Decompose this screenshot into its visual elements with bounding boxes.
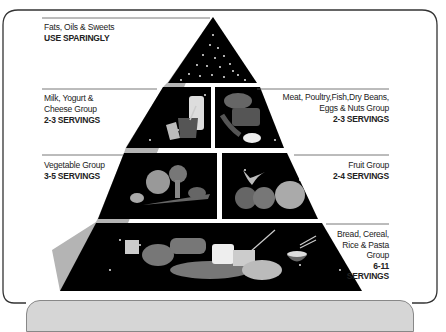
tier-bread (60, 223, 362, 291)
group-name: Milk, Yogurt & (44, 93, 100, 104)
servings: 2-3 SERVINGS (283, 114, 389, 125)
label-fruit: Fruit Group 2-4 SERVINGS (333, 160, 389, 182)
group-name: Group (337, 250, 389, 261)
tier-fats (168, 17, 257, 83)
servings: 2-4 SERVINGS (333, 171, 389, 182)
servings: SERVINGS (337, 271, 389, 282)
group-name: Cheese Group (44, 104, 100, 115)
servings: USE SPARINGLY (44, 33, 114, 44)
label-fats: Fats, Oils & Sweets USE SPARINGLY (44, 22, 114, 44)
group-name: Bread, Cereal, (337, 229, 389, 240)
group-name: Fats, Oils & Sweets (44, 22, 114, 33)
label-bread: Bread, Cereal, Rice & Pasta Group 6-11 S… (337, 229, 389, 282)
group-name: Meat, Poultry,Fish,Dry Beans, (283, 92, 389, 103)
label-vegetable: Vegetable Group 3-5 SERVINGS (44, 160, 105, 182)
servings: 3-5 SERVINGS (44, 171, 105, 182)
servings: 6-11 (337, 261, 389, 272)
label-meat: Meat, Poultry,Fish,Dry Beans, Eggs & Nut… (283, 92, 389, 125)
servings: 2-3 SERVINGS (44, 115, 100, 126)
group-name: Rice & Pasta (337, 240, 389, 251)
group-name: Fruit Group (333, 160, 389, 171)
bottom-panel (26, 300, 414, 332)
group-name: Eggs & Nuts Group (283, 103, 389, 114)
tier-fruit (222, 153, 318, 219)
label-milk: Milk, Yogurt & Cheese Group 2-3 SERVINGS (44, 93, 100, 126)
group-name: Vegetable Group (44, 160, 105, 171)
